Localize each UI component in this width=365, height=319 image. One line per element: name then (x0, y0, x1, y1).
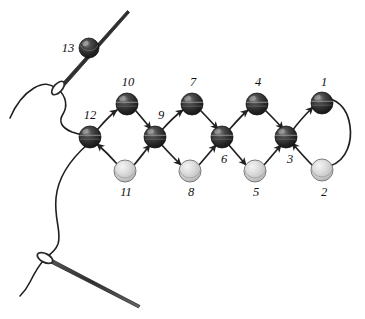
needle-bottom-shaft (44, 256, 140, 308)
stitch-12-to-10 (97, 110, 117, 130)
stitch-11-to-12 (97, 144, 118, 165)
bead-label-4: 4 (255, 75, 261, 89)
stitch-2-to-1-outer (330, 100, 350, 166)
bead-label-9: 9 (158, 108, 165, 122)
stitch-6-to-4 (228, 110, 248, 131)
bead-3 (275, 126, 297, 148)
stitch-9-to-8 (161, 144, 181, 165)
bead-12 (79, 126, 101, 148)
bead-6 (211, 126, 233, 148)
stitch-2-to-3 (292, 143, 313, 166)
bead-label-5: 5 (253, 185, 259, 199)
bead-4 (246, 93, 268, 115)
stitch-10-to-9 (136, 111, 151, 129)
stitch-4-to-3 (266, 111, 283, 129)
beadwork-diagram: 1 2 3 4 5 6 7 8 9 10 11 12 13 (0, 0, 365, 319)
bead-label-3: 3 (286, 152, 293, 166)
bead-label-10: 10 (122, 75, 135, 89)
stitch-9-to-7 (161, 110, 183, 131)
stitch-5-to-3 (264, 145, 281, 165)
bead-7 (181, 93, 203, 115)
bead-label-2: 2 (321, 185, 327, 199)
bead-9 (144, 126, 166, 148)
bead-11 (114, 160, 136, 182)
bead-label-7: 7 (190, 75, 197, 89)
stitch-11-to-9 (134, 145, 150, 165)
bead-10 (116, 93, 138, 115)
thread-lower-tail (20, 260, 44, 296)
needle-top-eye (49, 79, 66, 97)
bead-1 (311, 92, 333, 114)
bead-label-13: 13 (62, 41, 75, 55)
bead-label-11: 11 (120, 185, 132, 199)
stitch-7-to-6 (201, 111, 218, 129)
thread-upper-tail (10, 84, 56, 118)
bead-label-8: 8 (188, 185, 195, 199)
stitch-6-to-5 (228, 144, 246, 165)
thread-bead12-to-bottom-needle (45, 144, 88, 258)
diagram-canvas: 1 2 3 4 5 6 7 8 9 10 11 12 13 (0, 0, 365, 319)
stitch-8-to-6 (199, 145, 216, 165)
bead-5 (244, 160, 266, 182)
needle-bottom (36, 250, 140, 308)
bead-13 (79, 38, 99, 58)
bead-label-1: 1 (321, 75, 327, 89)
bead-2 (311, 159, 333, 181)
bead-8 (179, 160, 201, 182)
bead-label-6: 6 (221, 152, 228, 166)
stitch-3-to-1 (292, 107, 313, 131)
bead-label-12: 12 (84, 108, 97, 122)
